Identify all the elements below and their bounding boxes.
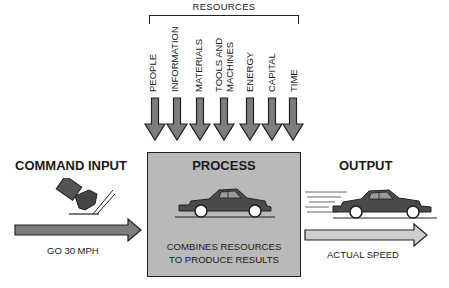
output-title: OUTPUT [339, 158, 392, 173]
output-label: ACTUAL SPEED [327, 249, 399, 260]
process-desc-line2: TO PRODUCE RESULTS [147, 253, 301, 266]
moving-car-icon [303, 188, 443, 224]
arrow-time-icon [283, 98, 303, 140]
foot-on-pedal-icon [55, 178, 115, 220]
arrow-people-icon [145, 98, 165, 140]
output-arrow [304, 223, 428, 247]
command-input-label: GO 30 MPH [47, 245, 99, 256]
car-icon [175, 186, 275, 222]
arrow-information-icon [167, 98, 187, 140]
arrow-tools-icon [214, 98, 234, 140]
command-input-title: COMMAND INPUT [15, 158, 127, 173]
arrow-energy-icon [240, 98, 260, 140]
process-description: COMBINES RESOURCES TO PRODUCE RESULTS [147, 240, 301, 266]
command-input-arrow [14, 218, 142, 242]
arrow-materials-icon [190, 98, 210, 140]
process-title: PROCESS [147, 158, 301, 173]
process-desc-line1: COMBINES RESOURCES [147, 240, 301, 253]
arrow-capital-icon [262, 98, 282, 140]
